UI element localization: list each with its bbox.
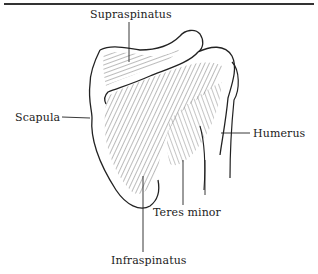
label-teres-minor: Teres minor [153,206,221,219]
scapula-leader [62,117,90,118]
label-humerus: Humerus [253,127,305,140]
humerus-outline [230,62,238,178]
label-supraspinatus: Supraspinatus [90,8,172,21]
label-infraspinatus: Infraspinatus [111,254,187,267]
label-scapula: Scapula [15,111,60,124]
